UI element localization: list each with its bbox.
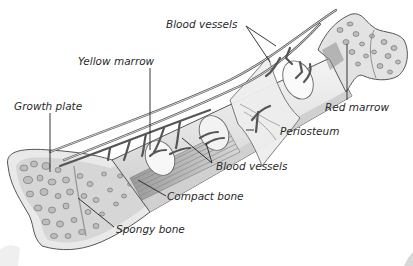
label-growth-plate: Growth plate — [14, 100, 82, 112]
corner-shadow-left — [0, 245, 20, 266]
diagram-canvas: Blood vessels Yellow marrow Growth plate… — [0, 0, 413, 266]
label-blood-vessels-top: Blood vessels — [166, 18, 238, 30]
label-compact-bone: Compact bone — [167, 190, 244, 202]
label-blood-vessels-middle: Blood vessels — [216, 160, 288, 172]
label-periosteum: Periosteum — [280, 125, 339, 137]
label-spongy-bone: Spongy bone — [116, 223, 185, 235]
long-bone-diagram: Blood vessels Yellow marrow Growth plate… — [0, 0, 413, 266]
corner-shadow-right — [404, 252, 413, 266]
label-yellow-marrow: Yellow marrow — [78, 55, 155, 67]
label-red-marrow: Red marrow — [325, 101, 389, 113]
